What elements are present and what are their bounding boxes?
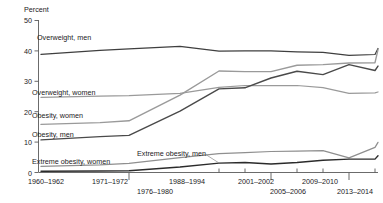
y-tick-label-40: 40	[24, 47, 32, 56]
y-axis-title: Percent	[24, 5, 49, 14]
series-label-extreme-obesity-women: Extreme obesity, women	[32, 157, 110, 166]
series-label-overweight-women: Overweight, women	[32, 88, 96, 97]
x-tick-label-1960-1962: 1960–1962	[28, 177, 64, 186]
x-tick-label-1988-1994: 1988–1994	[169, 177, 205, 186]
y-tick-label-30: 30	[24, 77, 32, 86]
x-tick-label-2009-2010: 2009–2010	[302, 177, 338, 186]
series-label-overweight-men: Overweight, men	[37, 33, 91, 42]
x-tick-label-2005-2006: 2005–2006	[270, 187, 306, 196]
y-tick-label-50: 50	[24, 16, 32, 25]
y-tick-label-20: 20	[24, 108, 32, 117]
series-line-overweight-men	[41, 46, 378, 55]
leader-line-extreme-obesity-men	[205, 154, 219, 163]
line-chart: Percent 50 40 30 20 10 0 1960–1962 1971–…	[0, 0, 383, 203]
x-tick-label-1976-1980: 1976–1980	[137, 187, 173, 196]
series-label-obesity-men: Obesity, men	[32, 130, 74, 139]
series-label-extreme-obesity-men: Extreme obesity, men	[137, 149, 206, 158]
x-tick-label-2013-2014: 2013–2014	[337, 187, 373, 196]
x-tick-label-2001-2002: 2001–2002	[238, 177, 274, 186]
series-line-obesity-men	[41, 65, 378, 140]
chart-container: Percent 50 40 30 20 10 0 1960–1962 1971–…	[0, 0, 383, 203]
y-tick-label-10: 10	[24, 138, 32, 147]
series-label-obesity-women: Obesity, women	[32, 111, 83, 120]
x-tick-label-1971-1972: 1971–1972	[92, 177, 128, 186]
